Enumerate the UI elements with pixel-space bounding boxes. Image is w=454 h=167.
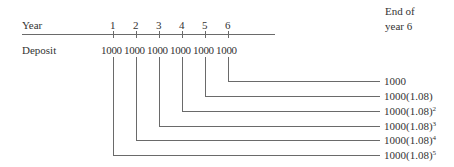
deposit-connector-vertical	[136, 57, 137, 140]
deposit-amount: 1000	[216, 44, 237, 56]
exponent: 2	[433, 105, 437, 113]
future-value-label: 1000(1.08)4	[384, 134, 436, 146]
year-tick-label: 1	[110, 19, 116, 31]
year-tick-mark	[182, 31, 183, 38]
future-value-label: 1000(1.08)	[384, 90, 433, 102]
deposit-connector-horizontal	[136, 140, 380, 141]
exponent: 3	[433, 120, 437, 128]
deposit-amount: 1000	[101, 44, 122, 56]
year-tick-mark	[159, 31, 160, 38]
deposit-connector-vertical	[228, 57, 229, 81]
year-tick-mark	[228, 31, 229, 38]
deposit-amount: 1000	[193, 44, 214, 56]
deposit-connector-horizontal	[205, 96, 380, 97]
deposit-connector-vertical	[205, 57, 206, 96]
exponent: 5	[433, 149, 437, 157]
year-tick-label: 6	[225, 19, 231, 31]
year-tick-mark	[205, 31, 206, 38]
deposit-connector-vertical	[159, 57, 160, 126]
timeline-axis	[22, 34, 275, 35]
deposit-row-label: Deposit	[22, 44, 56, 56]
deposit-connector-vertical	[182, 57, 183, 111]
deposit-amount: 1000	[170, 44, 191, 56]
year-tick-label: 4	[179, 19, 185, 31]
year-row-label: Year	[22, 19, 42, 31]
end-of-label-line1: End of	[385, 5, 415, 17]
year-tick-label: 2	[133, 19, 139, 31]
exponent: 4	[433, 134, 437, 142]
year-tick-label: 5	[202, 19, 208, 31]
deposit-connector-horizontal	[159, 126, 380, 127]
future-value-label: 1000(1.08)2	[384, 105, 436, 117]
year-tick-mark	[136, 31, 137, 38]
deposit-amount: 1000	[147, 44, 168, 56]
deposit-amount: 1000	[124, 44, 145, 56]
future-value-label: 1000	[384, 75, 406, 87]
year-tick-mark	[113, 31, 114, 38]
deposit-connector-horizontal	[182, 111, 380, 112]
deposit-connector-horizontal	[113, 155, 380, 156]
year-tick-label: 3	[156, 19, 162, 31]
deposit-connector-vertical	[113, 57, 114, 155]
compound-deposit-timeline-diagram: Year Deposit End of year 6 1100021000310…	[0, 0, 454, 167]
end-of-label-line2: year 6	[385, 20, 412, 32]
future-value-label: 1000(1.08)5	[384, 149, 436, 161]
deposit-connector-horizontal	[228, 81, 380, 82]
future-value-label: 1000(1.08)3	[384, 120, 436, 132]
